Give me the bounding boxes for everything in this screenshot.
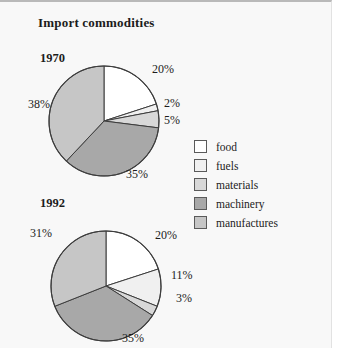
legend-swatch-machinery-icon [194, 197, 207, 210]
legend-label-machinery: machinery [216, 198, 265, 210]
pie-chart-1992 [50, 230, 162, 342]
legend-label-fuels: fuels [216, 160, 238, 172]
legend-item-machinery: machinery [194, 194, 278, 213]
page-root: Import commodities 1970 20% 2% 5% 35% 38… [0, 0, 349, 363]
legend-item-manufactures: manufactures [194, 213, 278, 232]
pct-label-1970-fuels: 2% [164, 96, 180, 111]
pie-chart-1970-svg [48, 65, 160, 177]
pct-label-1970-machinery: 35% [126, 167, 148, 182]
pct-label-1970-food: 20% [152, 62, 174, 77]
chart-year-label-1970: 1970 [40, 51, 65, 66]
pie-chart-1970 [48, 65, 160, 177]
pct-label-1992-machinery: 35% [122, 331, 144, 346]
legend-label-food: food [216, 141, 237, 153]
legend-item-fuels: fuels [194, 156, 278, 175]
pct-label-1992-food: 20% [155, 228, 177, 243]
legend-item-materials: materials [194, 175, 278, 194]
pct-label-1970-manufactures: 38% [28, 97, 50, 112]
legend-swatch-fuels-icon [194, 159, 207, 172]
legend-swatch-food-icon [194, 140, 207, 153]
pct-label-1992-fuels: 11% [171, 268, 193, 283]
pct-label-1970-materials: 5% [164, 113, 180, 128]
pct-label-1992-manufactures: 31% [30, 226, 52, 241]
legend: food fuels materials machinery manufactu… [194, 137, 278, 232]
page-title: Import commodities [38, 15, 155, 31]
pie-chart-1992-svg [50, 230, 162, 342]
legend-label-materials: materials [216, 179, 258, 191]
legend-item-food: food [194, 137, 278, 156]
legend-label-manufactures: manufactures [216, 217, 278, 229]
pct-label-1992-materials: 3% [176, 291, 192, 306]
legend-swatch-materials-icon [194, 178, 207, 191]
chart-year-label-1992: 1992 [40, 196, 65, 211]
legend-swatch-manufactures-icon [194, 216, 207, 229]
